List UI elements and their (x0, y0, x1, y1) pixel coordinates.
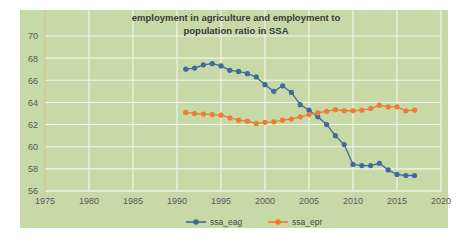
data-point (192, 111, 197, 116)
data-point (324, 109, 329, 114)
data-point (386, 167, 391, 172)
data-point (350, 162, 355, 167)
x-axis-tick-label: 1985 (123, 196, 143, 206)
y-axis-tick-label: 66 (28, 76, 38, 86)
data-point (183, 110, 188, 115)
data-point (201, 111, 206, 116)
y-axis-tick-label: 64 (28, 98, 38, 108)
data-point (394, 172, 399, 177)
data-point (289, 90, 294, 95)
data-point (368, 106, 373, 111)
data-series-layer (183, 61, 417, 178)
data-point (306, 112, 311, 117)
x-axis-tick-label: 2010 (343, 196, 363, 206)
data-point (324, 122, 329, 127)
data-point (333, 107, 338, 112)
y-axis-tick-label: 62 (28, 120, 38, 130)
legend-label: ssa_epr (292, 217, 322, 227)
data-point (377, 103, 382, 108)
data-point (359, 108, 364, 113)
data-point (280, 118, 285, 123)
data-point (350, 108, 355, 113)
data-point (192, 66, 197, 71)
chart-legend: ssa_eagssa_epr (186, 217, 322, 227)
legend-item-ssa_epr[interactable]: ssa_epr (268, 217, 322, 227)
data-point (218, 113, 223, 118)
data-point (412, 108, 417, 113)
data-point (280, 83, 285, 88)
data-point (412, 173, 417, 178)
data-point (403, 173, 408, 178)
data-point (298, 114, 303, 119)
y-axis-tick-label: 70 (28, 31, 38, 41)
y-axis-tick-label: 68 (28, 54, 38, 64)
x-axis-tick-label: 2020 (431, 196, 451, 206)
data-point (227, 68, 232, 73)
data-point (201, 62, 206, 67)
data-point (333, 133, 338, 138)
data-point (210, 112, 215, 117)
data-point (306, 108, 311, 113)
x-axis-tick-label: 1980 (79, 196, 99, 206)
data-point (236, 69, 241, 74)
data-point (183, 67, 188, 72)
chart-screenshot: 5658606264666870 19751980198519901995200… (0, 0, 459, 243)
data-point (377, 161, 382, 166)
data-point (342, 142, 347, 147)
x-axis-tick-label: 2005 (299, 196, 319, 206)
x-axis-tick-label: 1975 (35, 196, 55, 206)
data-point (227, 115, 232, 120)
data-point (359, 163, 364, 168)
data-point (262, 82, 267, 87)
x-axis-tick-label: 2000 (255, 196, 275, 206)
legend-label: ssa_eag (210, 217, 242, 227)
y-axis-tick-label: 58 (28, 164, 38, 174)
series-ssa_eag (183, 61, 417, 178)
y-axis-tick-labels: 5658606264666870 (28, 31, 38, 196)
chart-title-line-2: population ratio in SSA (183, 25, 288, 36)
data-point (271, 119, 276, 124)
y-axis-tick-label: 60 (28, 142, 38, 152)
data-point (218, 63, 223, 68)
data-point (394, 104, 399, 109)
x-axis-tick-label: 2015 (387, 196, 407, 206)
data-point (236, 118, 241, 123)
data-point (342, 108, 347, 113)
data-point (289, 116, 294, 121)
x-axis-tick-label: 1995 (211, 196, 231, 206)
x-axis-tick-labels: 1975198019851990199520002005201020152020 (35, 196, 451, 206)
y-axis-tick-label: 56 (28, 186, 38, 196)
data-point (368, 163, 373, 168)
legend-item-ssa_eag[interactable]: ssa_eag (186, 217, 242, 227)
chart-title-line-1: employment in agriculture and employment… (132, 12, 341, 23)
line-chart: 5658606264666870 19751980198519901995200… (0, 0, 459, 243)
data-point (254, 121, 259, 126)
data-point (386, 104, 391, 109)
data-point (315, 110, 320, 115)
data-point (298, 102, 303, 107)
x-axis-tick-label: 1990 (167, 196, 187, 206)
data-point (245, 71, 250, 76)
data-point (254, 74, 259, 79)
data-point (271, 89, 276, 94)
data-point (245, 119, 250, 124)
data-point (262, 120, 267, 125)
data-point (403, 108, 408, 113)
data-point (210, 61, 215, 66)
